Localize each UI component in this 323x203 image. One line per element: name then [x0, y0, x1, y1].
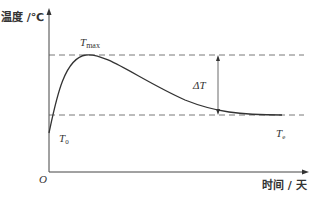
te-label: Te [276, 127, 285, 141]
tmax-label: Tmax [80, 36, 100, 50]
x-axis-arrow-icon [302, 170, 309, 175]
y-axis-arrow-icon [47, 8, 52, 15]
delta-t-arrow-down-icon [216, 109, 220, 115]
temperature-curve-diagram: 温度 /℃ 时间 / 天 O Tmax T0 Te ΔT [0, 0, 323, 203]
t0-label: T0 [59, 132, 69, 146]
delta-t-arrow-up-icon [216, 55, 220, 61]
y-axis-label: 温度 /℃ [1, 10, 44, 24]
x-axis-label: 时间 / 天 [262, 178, 308, 192]
temperature-curve [49, 55, 282, 133]
delta-t-label: ΔT [192, 79, 206, 91]
origin-label: O [39, 173, 47, 185]
